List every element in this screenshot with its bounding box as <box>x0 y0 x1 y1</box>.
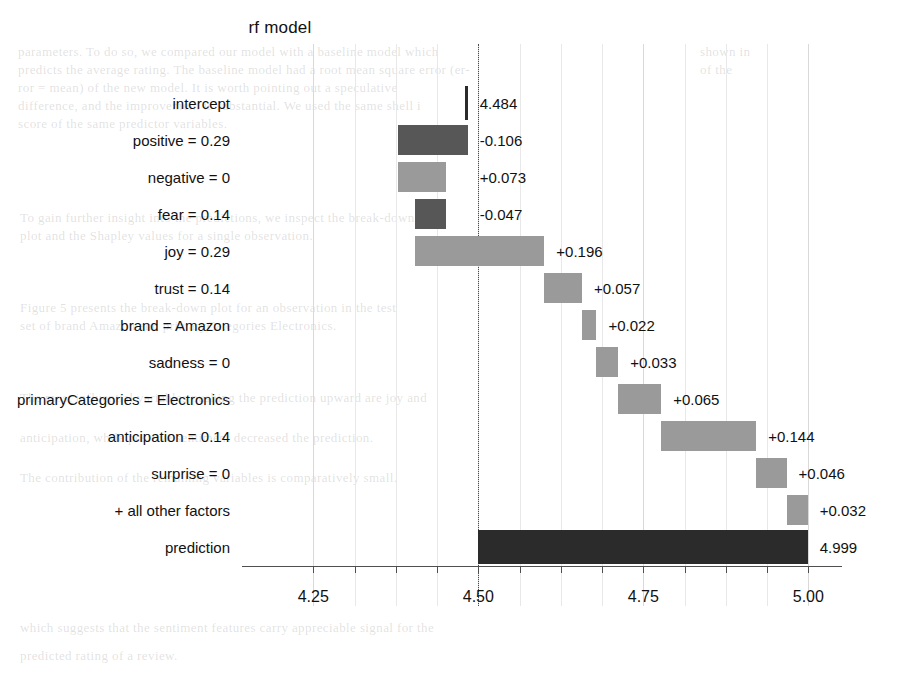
x-axis-tick <box>643 566 644 573</box>
bar-value-label: +0.073 <box>480 168 526 185</box>
x-axis-tick <box>561 566 562 573</box>
row-label: surprise = 0 <box>151 465 230 482</box>
ghost-text-line: which suggests that the sentiment featur… <box>20 620 434 636</box>
waterfall-bar <box>415 236 544 266</box>
baseline-dotted-line <box>478 44 479 606</box>
x-axis-tick <box>685 566 686 573</box>
bar-value-label: +0.032 <box>820 502 866 519</box>
waterfall-bar <box>544 273 582 303</box>
waterfall-bar <box>478 530 807 564</box>
waterfall-plot <box>242 44 842 606</box>
gridline-minor <box>726 44 727 606</box>
chart-title: rf model <box>0 18 560 38</box>
bar-value-label: -0.106 <box>480 131 523 148</box>
x-tick-label: 4.75 <box>628 588 659 606</box>
waterfall-bar <box>415 199 446 229</box>
waterfall-bar <box>661 421 756 451</box>
waterfall-bar <box>756 458 786 488</box>
x-axis-tick <box>767 566 768 573</box>
row-label: + all other factors <box>115 502 230 519</box>
row-label: prediction <box>165 539 230 556</box>
gridline-minor <box>355 44 356 606</box>
x-axis-tick <box>726 566 727 573</box>
bar-value-label: 4.484 <box>480 94 518 111</box>
x-axis-tick <box>355 566 356 573</box>
row-label: sadness = 0 <box>149 354 230 371</box>
bar-value-label: +0.144 <box>768 428 814 445</box>
x-axis-line <box>242 566 842 567</box>
figure-page: parameters. To do so, we compared our mo… <box>0 0 921 676</box>
gridline-minor <box>396 44 397 606</box>
x-axis-tick <box>437 566 438 573</box>
bar-value-label: +0.057 <box>594 279 640 296</box>
row-label: trust = 0.14 <box>155 279 230 296</box>
row-label: intercept <box>172 94 230 111</box>
waterfall-bar <box>596 347 618 377</box>
waterfall-bar <box>787 495 808 525</box>
row-label: primaryCategories = Electronics <box>17 391 230 408</box>
row-label: anticipation = 0.14 <box>108 428 230 445</box>
gridline-minor <box>561 44 562 606</box>
x-tick-label: 5.00 <box>793 588 824 606</box>
waterfall-bar <box>398 125 468 155</box>
x-axis-tick <box>396 566 397 573</box>
bar-value-label: +0.033 <box>630 354 676 371</box>
waterfall-bar <box>618 384 661 414</box>
ghost-text-line: predicted rating of a review. <box>20 648 178 664</box>
x-axis-tick <box>602 566 603 573</box>
x-axis-tick <box>313 566 314 573</box>
x-axis-tick <box>478 566 479 573</box>
bar-value-label: -0.047 <box>480 205 523 222</box>
waterfall-bar <box>582 310 597 340</box>
gridline-minor <box>767 44 768 606</box>
bar-value-label: +0.022 <box>608 317 654 334</box>
x-axis-tick <box>808 566 809 573</box>
bar-value-label: +0.065 <box>673 391 719 408</box>
row-label: brand = Amazon <box>120 317 230 334</box>
x-tick-label: 4.50 <box>463 588 494 606</box>
waterfall-bar <box>398 162 446 192</box>
row-label: joy = 0.29 <box>165 242 230 259</box>
gridline-minor <box>520 44 521 606</box>
x-axis-tick <box>520 566 521 573</box>
row-label: negative = 0 <box>148 168 230 185</box>
gridline-minor <box>602 44 603 606</box>
gridline-major <box>808 44 809 606</box>
waterfall-bar <box>465 86 468 120</box>
x-tick-label: 4.25 <box>298 588 329 606</box>
row-label: positive = 0.29 <box>133 131 230 148</box>
ghost-text-line: score of the same predictor variables. <box>18 116 227 132</box>
gridline-minor <box>685 44 686 606</box>
bar-value-label: +0.046 <box>799 465 845 482</box>
bar-value-label: +0.196 <box>556 242 602 259</box>
row-label: fear = 0.14 <box>158 205 230 222</box>
gridline-major <box>313 44 314 606</box>
bar-value-label: 4.999 <box>820 539 858 556</box>
